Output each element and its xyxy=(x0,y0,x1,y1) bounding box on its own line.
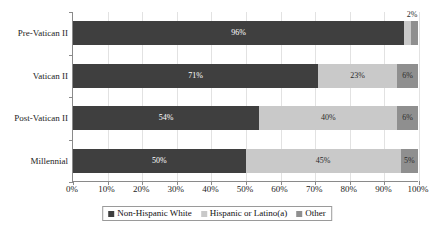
stacked-bar-chart: Pre-Vatican IIVatican IIPost-Vatican IIM… xyxy=(0,0,434,230)
bar-segment-label: 6% xyxy=(402,72,413,80)
value-axis-label: 20% xyxy=(133,184,150,194)
bar-segment-label: 50% xyxy=(152,157,167,165)
bar-segment-label: 23% xyxy=(350,72,365,80)
category-axis-labels: Pre-Vatican IIVatican IIPost-Vatican IIM… xyxy=(0,12,68,182)
chart-legend: Non-Hispanic WhiteHispanic or Latino(a)O… xyxy=(102,206,332,221)
bar-segment: 45% xyxy=(246,149,401,173)
category-label: Pre-Vatican II xyxy=(18,28,68,38)
legend-swatch-icon xyxy=(201,211,207,217)
value-axis-label: 90% xyxy=(375,184,392,194)
bar-segment-label: 40% xyxy=(321,114,336,122)
bar-row: 96%2%2% xyxy=(73,21,418,45)
value-axis-label: 60% xyxy=(271,184,288,194)
bar-segment: 2% xyxy=(404,21,411,45)
category-axis-tick xyxy=(69,55,73,56)
category-axis-tick xyxy=(69,140,73,141)
bar-segment-label: 5% xyxy=(404,157,415,165)
category-axis-tick xyxy=(69,12,73,13)
legend-item[interactable]: Hispanic or Latino(a) xyxy=(201,209,287,218)
legend-swatch-icon xyxy=(108,211,114,217)
bar-segment-label: 96% xyxy=(231,29,246,37)
category-axis-tick xyxy=(69,97,73,98)
value-axis-label: 30% xyxy=(168,184,185,194)
bar-segment-label: 45% xyxy=(316,157,331,165)
bar-segment: 23% xyxy=(318,64,397,88)
bar-segment: 96% xyxy=(73,21,404,45)
bar-row: 71%23%6% xyxy=(73,64,418,88)
bar-segment-label: 71% xyxy=(188,72,203,80)
value-axis-label: 0% xyxy=(66,184,78,194)
bar-segment: 2% xyxy=(411,21,418,45)
value-axis-label: 100% xyxy=(408,184,429,194)
bar-segment: 5% xyxy=(401,149,418,173)
value-axis-label: 40% xyxy=(202,184,219,194)
category-label: Post-Vatican II xyxy=(14,113,68,123)
value-axis-label: 10% xyxy=(98,184,115,194)
legend-label: Other xyxy=(305,209,326,218)
legend-swatch-icon xyxy=(296,211,302,217)
bar-segment-label: 54% xyxy=(159,114,174,122)
value-axis-label: 50% xyxy=(237,184,254,194)
bar-row: 50%45%5% xyxy=(73,149,418,173)
legend-item[interactable]: Non-Hispanic White xyxy=(108,209,192,218)
bar-row: 54%40%6% xyxy=(73,106,418,130)
bar-segment-label: 6% xyxy=(402,114,413,122)
legend-label: Hispanic or Latino(a) xyxy=(210,209,287,218)
gridline xyxy=(419,12,420,181)
legend-label: Non-Hispanic White xyxy=(117,209,192,218)
value-axis-label: 80% xyxy=(341,184,358,194)
bar-segment: 6% xyxy=(397,106,418,130)
legend-item[interactable]: Other xyxy=(296,209,326,218)
outside-data-label: 2% xyxy=(407,10,418,19)
plot-area: 96%2%2%71%23%6%54%40%6%50%45%5% 2% xyxy=(72,12,418,182)
bar-segment: 50% xyxy=(73,149,246,173)
bar-segment: 40% xyxy=(259,106,397,130)
bar-segment: 54% xyxy=(73,106,259,130)
bar-segment: 6% xyxy=(397,64,418,88)
category-label: Vatican II xyxy=(33,71,68,81)
category-label: Millennial xyxy=(31,156,69,166)
value-axis-label: 70% xyxy=(306,184,323,194)
value-axis-labels: 0%10%20%30%40%50%60%70%80%90%100% xyxy=(72,184,418,198)
bar-segment: 71% xyxy=(73,64,318,88)
